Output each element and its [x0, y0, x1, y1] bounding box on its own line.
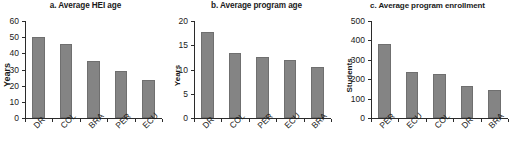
x-tick-labels-a: DRCOLBRAPERECU — [0, 0, 171, 150]
figure-three-bar-charts: a. Average HEI age Years 0102030405060 D… — [0, 0, 513, 150]
plot-area-b: 05101520 DRCOLPERECUBRA — [171, 0, 342, 150]
plot-area-c: 0100200300400500 PERECUCOLDRBRA — [342, 0, 513, 150]
x-category-label: DR — [201, 115, 216, 130]
x-category-label: COL — [59, 112, 78, 131]
x-tick-labels-c: PERECUCOLDRBRA — [342, 0, 513, 150]
x-tick-labels-b: DRCOLPERECUBRA — [171, 0, 342, 150]
x-category-label: COL — [228, 112, 247, 131]
x-category-label: PER — [114, 112, 133, 131]
x-category-label: ECU — [405, 111, 424, 130]
x-category-label: COL — [433, 112, 452, 131]
chart-panel-b: b. Average program age Years 05101520 DR… — [171, 0, 342, 150]
chart-panel-c: c. Average program enrollment Students 0… — [342, 0, 513, 150]
x-category-label: ECU — [141, 111, 160, 130]
plot-area-a: 0102030405060 DRCOLBRAPERECU — [0, 0, 171, 150]
chart-panel-a: a. Average HEI age Years 0102030405060 D… — [0, 0, 171, 150]
x-category-label: BRA — [310, 112, 329, 131]
x-category-label: PER — [256, 112, 275, 131]
x-category-label: BRA — [487, 112, 506, 131]
x-category-label: DR — [460, 115, 475, 130]
x-category-label: PER — [378, 112, 397, 131]
x-category-label: BRA — [87, 112, 106, 131]
x-category-label: ECU — [283, 111, 302, 130]
x-category-label: DR — [32, 115, 47, 130]
